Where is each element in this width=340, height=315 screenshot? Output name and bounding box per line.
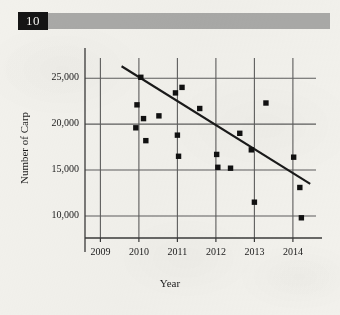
x-tick-label: 2014 [273,246,313,257]
data-point [179,85,184,90]
data-point [134,102,139,107]
y-tick-label: 20,000 [27,117,79,128]
data-point [228,166,233,171]
x-tick-label: 2012 [196,246,236,257]
gridlines [85,58,316,238]
y-tick-label: 10,000 [27,209,79,220]
y-axis-title: Number of Carp [18,93,30,203]
x-tick-label: 2011 [157,246,197,257]
x-tick-label: 2010 [119,246,159,257]
data-point [297,185,302,190]
data-point [291,154,296,159]
data-point [263,100,268,105]
data-point [197,106,202,111]
data-point [141,116,146,121]
data-point [176,154,181,159]
data-point [214,152,219,157]
x-tick-label: 2009 [80,246,120,257]
data-point [252,199,257,204]
data-point [156,113,161,118]
data-point [143,138,148,143]
x-axis-title: Year [0,277,340,289]
data-point [237,131,242,136]
data-point [215,165,220,170]
plot-canvas [0,0,340,315]
x-tick-label: 2013 [234,246,274,257]
data-point [173,90,178,95]
y-tick-label: 25,000 [27,71,79,82]
data-point [138,75,143,80]
carp-population-scatter-figure: Number of Carp Year 10,00015,00020,00025… [0,0,340,315]
y-tick-label: 15,000 [27,163,79,174]
data-point [249,147,254,152]
data-point [133,125,138,130]
data-point [299,215,304,220]
data-markers [133,75,304,221]
data-point [175,132,180,137]
